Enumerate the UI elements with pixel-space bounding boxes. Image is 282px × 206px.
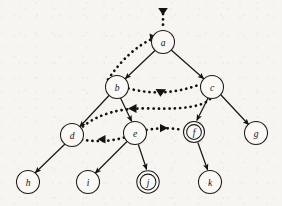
graph-canvas: a b c d e f [0,0,282,206]
node-i[interactable]: i [77,171,100,194]
tree-edge-c-g [221,95,249,125]
dotted-edge-b-c [129,84,202,92]
node-b-label: b [115,83,120,93]
node-g-label: g [254,129,259,139]
node-a-label: a [161,38,166,48]
tree-edge-a-b [126,51,156,79]
node-f[interactable]: f [184,122,205,143]
root-entry-arrowhead [158,8,168,15]
tree-edge-e-i [96,142,127,173]
dotted-edge-e-f-arrowhead [160,124,168,132]
tree-edge-d-h [36,144,66,173]
dotted-edge-c-d-arrowhead [128,104,137,113]
nodes-group: a b c d e f [17,31,268,194]
node-c[interactable]: c [201,76,224,99]
node-b[interactable]: b [106,76,129,99]
dotted-edge-e-d-arrowhead [98,135,106,144]
node-i-label: i [87,178,90,188]
graph-figure: a b c d e f [0,0,282,206]
tree-edge-e-j [139,145,147,169]
node-j[interactable]: j [137,171,159,193]
node-h-label: h [26,178,31,188]
tree-edge-b-d [80,96,109,127]
node-k[interactable]: k [199,171,222,194]
tree-edge-f-k [198,143,208,170]
node-e[interactable]: e [124,122,147,145]
node-d-label: d [70,131,75,141]
tree-edge-a-c [171,50,203,79]
node-h[interactable]: h [17,171,40,194]
node-a[interactable]: a [152,31,175,54]
node-g[interactable]: g [245,122,268,145]
node-d[interactable]: d [61,124,84,147]
tree-edges-group [36,50,249,173]
root-entry-arrow [158,8,168,30]
node-e-label: e [133,129,137,139]
